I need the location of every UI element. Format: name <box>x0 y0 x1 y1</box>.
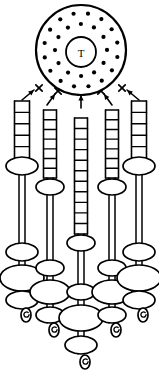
disc-dot <box>43 55 47 59</box>
strand-bead <box>36 260 64 276</box>
disc-dot <box>79 22 83 26</box>
disc-dot <box>59 79 63 83</box>
disc-dot <box>66 70 70 74</box>
disc-dot <box>48 69 52 73</box>
strand-bead <box>123 291 155 309</box>
strand-bead <box>6 157 38 175</box>
strand-bead <box>98 307 126 323</box>
disc-dot <box>105 48 109 52</box>
strand-bead <box>36 179 64 195</box>
strand-bead <box>123 243 155 261</box>
disc-dot <box>43 41 47 45</box>
disc-dot <box>110 68 114 72</box>
strand-bead <box>117 265 159 291</box>
disc-dot <box>56 61 60 65</box>
disc-dot <box>58 17 62 21</box>
strand-bead <box>123 157 155 175</box>
strand-bead <box>67 235 95 251</box>
disc-dot <box>66 25 70 29</box>
strand-bead <box>59 305 103 331</box>
diagram-canvas: T <box>0 0 159 384</box>
disc-dot <box>56 35 60 39</box>
strand-bead <box>98 179 126 195</box>
disc-layer: T <box>36 5 126 95</box>
disc-dot <box>53 48 57 52</box>
disc-dot <box>110 27 114 31</box>
disc-dot <box>71 12 75 16</box>
disc-dot <box>79 74 83 78</box>
disc-dot <box>72 84 76 88</box>
disc-dot <box>115 55 119 59</box>
strand-bead <box>30 280 70 304</box>
disc-dot <box>115 40 119 44</box>
disc-dot <box>48 28 52 32</box>
disc-dot <box>92 25 96 29</box>
disc-dot <box>99 17 103 21</box>
disc-dot <box>86 84 90 88</box>
strand-bead <box>65 336 97 354</box>
disc-dot <box>100 79 104 83</box>
disc-dot <box>101 35 105 39</box>
strand-bead <box>6 243 38 261</box>
disc-core-label: T <box>78 47 85 59</box>
figure-root: T <box>0 0 159 384</box>
disc-dot <box>86 12 90 16</box>
disc-dot <box>101 61 105 65</box>
strand-bead <box>67 284 95 300</box>
disc-dot <box>92 70 96 74</box>
